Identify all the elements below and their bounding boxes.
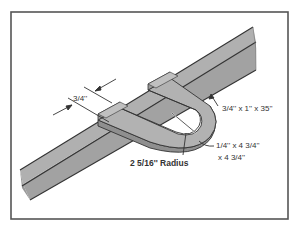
radius-label: 2 5/16'' Radius	[130, 159, 188, 168]
plate-dimensions-label-line1: 1/4'' x 4 3/4''	[216, 142, 259, 150]
bar-dimensions-label: 3/4'' x 1'' x 35''	[222, 105, 273, 113]
width-dimension-label: 3/4''	[73, 95, 87, 103]
bracket-diagram	[0, 0, 297, 227]
plate-dimensions-label-line2: x 4 3/4''	[218, 154, 245, 162]
